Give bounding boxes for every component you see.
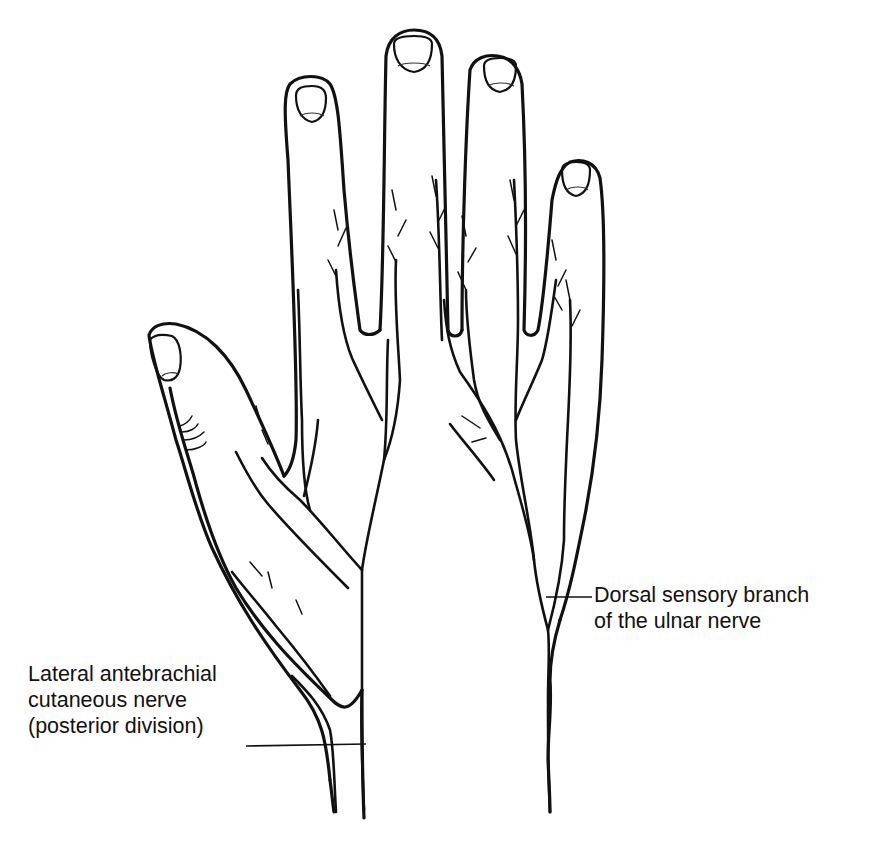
label-dorsal-sensory-branch-ulnar-nerve: Dorsal sensory branch of the ulnar nerve xyxy=(594,582,809,634)
cropped-caption-text xyxy=(0,841,889,851)
nerve-branches xyxy=(232,180,571,812)
label-line: Dorsal sensory branch xyxy=(594,582,809,608)
nerve-twigs xyxy=(250,176,580,614)
lateral-label-leader xyxy=(246,744,366,746)
label-line: cutaneous nerve xyxy=(28,687,217,713)
hand-outline xyxy=(149,30,604,818)
label-line: Lateral antebrachial xyxy=(28,661,217,687)
label-line: of the ulnar nerve xyxy=(594,608,809,634)
label-lateral-antebrachial-cutaneous-nerve: Lateral antebrachial cutaneous nerve (po… xyxy=(28,661,217,739)
label-line: (posterior division) xyxy=(28,713,217,739)
